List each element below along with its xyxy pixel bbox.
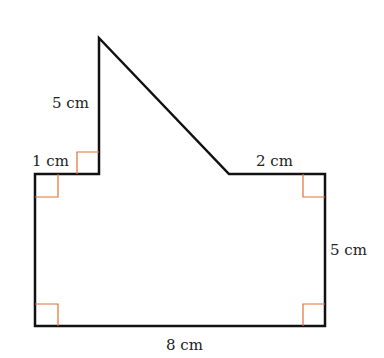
label-top-right: 2 cm <box>256 152 293 170</box>
label-left-vertical: 5 cm <box>52 94 89 112</box>
label-bottom: 8 cm <box>166 336 203 354</box>
composite-shape-diagram: 5 cm 1 cm 2 cm 5 cm 8 cm <box>0 0 384 358</box>
right-angle-marker-bottom-left <box>35 304 58 326</box>
right-angle-markers <box>35 152 325 326</box>
right-angle-marker-step-inner <box>77 152 99 174</box>
right-angle-marker-top-right <box>303 174 325 197</box>
label-right-side: 5 cm <box>330 241 367 259</box>
right-angle-marker-top-left <box>35 174 58 197</box>
shape-outline <box>35 38 325 326</box>
label-step-width: 1 cm <box>32 152 69 170</box>
right-angle-marker-bottom-right <box>303 304 325 326</box>
